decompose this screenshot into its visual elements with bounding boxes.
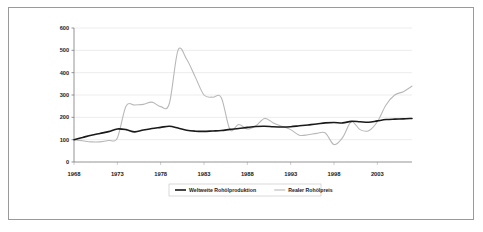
series-line-production — [74, 118, 412, 139]
x-axis-ticks — [74, 162, 377, 165]
line-chart: 0100200300400500600 19681973197819831988… — [8, 7, 474, 220]
y-tick-label-200: 200 — [60, 114, 69, 120]
x-tick-label-1983: 1983 — [198, 171, 212, 177]
x-tick-label-2003: 2003 — [371, 171, 385, 177]
x-axis-tick-labels: 19681973197819831988199319982003 — [68, 171, 385, 177]
figure-container: 0100200300400500600 19681973197819831988… — [0, 0, 483, 232]
x-tick-label-1968: 1968 — [68, 171, 82, 177]
chart-legend: Weltweite RohölproduktionRealer Rohölpre… — [169, 184, 333, 196]
y-tick-label-0: 0 — [66, 159, 69, 165]
y-tick-label-600: 600 — [60, 25, 69, 31]
x-tick-label-1973: 1973 — [111, 171, 125, 177]
y-tick-label-100: 100 — [60, 137, 69, 143]
x-tick-label-1978: 1978 — [154, 171, 168, 177]
y-axis-tick-labels: 0100200300400500600 — [60, 25, 74, 165]
legend-label-production: Weltweite Rohölproduktion — [189, 187, 256, 193]
x-tick-label-1993: 1993 — [284, 171, 298, 177]
gridlines-group — [74, 28, 412, 140]
legend-label-price: Realer Rohölpreis — [288, 187, 333, 193]
x-tick-label-1998: 1998 — [328, 171, 342, 177]
data-series-group — [74, 48, 412, 145]
chart-canvas: 0100200300400500600 19681973197819831988… — [8, 7, 474, 220]
y-tick-label-400: 400 — [60, 70, 69, 76]
x-tick-label-1988: 1988 — [241, 171, 255, 177]
y-tick-label-500: 500 — [60, 47, 69, 53]
y-tick-label-300: 300 — [60, 92, 69, 98]
